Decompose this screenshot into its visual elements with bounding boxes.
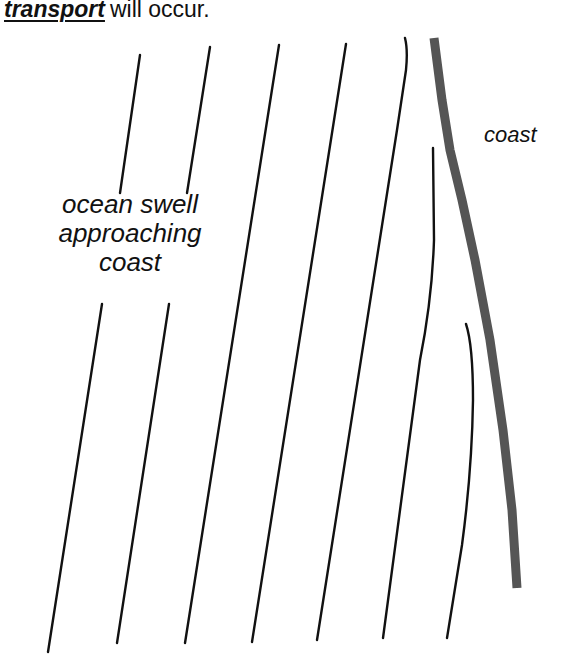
- swell-crest-2-upper: [187, 47, 210, 193]
- swell-crest-6: [383, 148, 434, 638]
- swell-label-line-1: ocean swell: [20, 190, 240, 219]
- swell-crest-1-upper: [120, 55, 140, 193]
- coast-label: coast: [484, 120, 537, 149]
- swell-crest-1-lower: [48, 304, 102, 652]
- swell-crest-2-lower: [117, 304, 169, 643]
- swell-crest-5: [317, 38, 407, 640]
- wave-diagram: [0, 0, 571, 661]
- swell-label-line-2: approaching: [20, 219, 240, 248]
- swell-crest-7: [447, 324, 473, 638]
- swell-label: ocean swell approaching coast: [20, 190, 240, 277]
- diagram-canvas: transportwill occur. ocean swell approac…: [0, 0, 571, 661]
- swell-label-line-3: coast: [20, 248, 240, 277]
